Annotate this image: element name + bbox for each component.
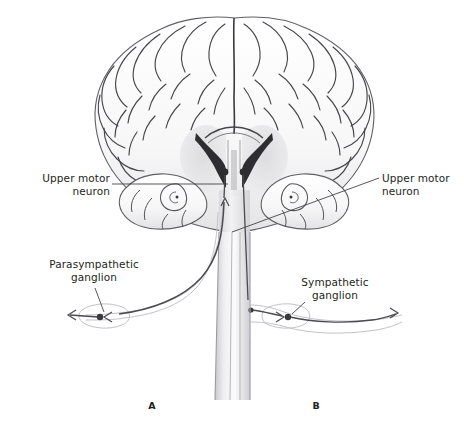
cerebrum-coronal-section [95, 17, 374, 238]
sympathetic-ganglion-node [285, 314, 291, 320]
label-parasympathetic-line2: ganglion [34, 271, 154, 284]
label-sympathetic-line2: ganglion [280, 289, 390, 302]
upper-motor-neuron-soma-left [222, 169, 229, 176]
label-umn-left-line1: Upper motor [6, 172, 110, 185]
label-sympathetic-line1: Sympathetic [280, 276, 390, 289]
label-sympathetic-ganglion: Sympathetic ganglion [280, 276, 390, 302]
anatomy-figure: Upper motor neuron Upper motor neuron Pa… [0, 0, 464, 437]
sympathetic-cord-exit-node [248, 307, 253, 312]
label-umn-right-line2: neuron [382, 185, 462, 198]
panel-label-b: B [300, 400, 332, 411]
label-parasympathetic-ganglion: Parasympathetic ganglion [34, 258, 154, 284]
upper-motor-neuron-soma-right [240, 169, 247, 176]
label-upper-motor-neuron-left: Upper motor neuron [6, 172, 110, 198]
anatomy-illustration [0, 0, 464, 437]
label-upper-motor-neuron-right: Upper motor neuron [382, 172, 462, 198]
panel-label-a: A [136, 400, 168, 411]
label-umn-right-line1: Upper motor [382, 172, 462, 185]
interhemispheric-fissure [234, 18, 235, 134]
label-parasympathetic-line1: Parasympathetic [34, 258, 154, 271]
spinal-cord [215, 232, 250, 400]
label-umn-left-line2: neuron [6, 185, 110, 198]
third-ventricle [231, 150, 237, 196]
parasympathetic-ganglion-node [97, 314, 103, 320]
